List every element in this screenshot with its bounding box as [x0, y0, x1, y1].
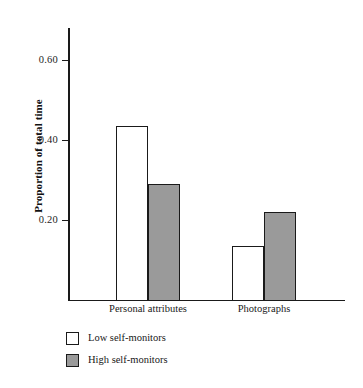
legend-swatch-white-square: [66, 332, 79, 345]
bar-photographs-low-self-monitors: [232, 246, 264, 300]
bar-personal-attributes-low-self-monitors: [116, 126, 148, 300]
bar-personal-attributes-high-self-monitors: [148, 184, 180, 300]
bar-chart-figure: Proportion of total time 0.20 0.40 0.60 …: [0, 0, 363, 388]
bar-photographs-high-self-monitors: [264, 212, 296, 300]
y-tick-mark-0.20: [62, 220, 69, 221]
legend-label-low-self-monitors: Low self-monitors: [88, 333, 166, 344]
x-category-label-personal-attributes: Personal attributes: [88, 303, 208, 315]
y-tick-label-0.40: 0.40: [22, 135, 58, 146]
y-axis-title: Proportion of total time: [32, 56, 44, 256]
legend-label-high-self-monitors: High self-monitors: [88, 355, 168, 366]
x-axis-line: [68, 300, 345, 301]
legend: Low self-monitors High self-monitors: [66, 330, 168, 374]
y-tick-mark-0.60: [62, 60, 69, 61]
y-axis-line: [68, 28, 70, 300]
y-tick-label-0.60: 0.60: [22, 55, 58, 66]
y-tick-mark-0.40: [62, 140, 69, 141]
legend-swatch-gray-square: [66, 354, 79, 367]
y-tick-label-0.20: 0.20: [22, 215, 58, 226]
legend-item-low-self-monitors: Low self-monitors: [66, 330, 168, 347]
legend-item-high-self-monitors: High self-monitors: [66, 352, 168, 369]
x-category-label-photographs: Photographs: [204, 303, 324, 315]
